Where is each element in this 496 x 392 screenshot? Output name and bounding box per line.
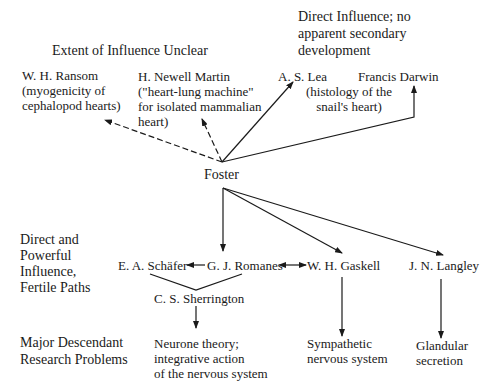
node-sherrington: C. S. Sherrington bbox=[154, 291, 244, 306]
problem-line: secretion bbox=[416, 353, 468, 368]
node-foster: Foster bbox=[204, 166, 239, 183]
node-langley: J. N. Langley bbox=[409, 258, 479, 273]
problem-line: Neurone theory; bbox=[154, 336, 268, 351]
node-romanes: G. J. Romanes bbox=[207, 258, 283, 273]
heading-descendant-problems: Major Descendant Research Problems bbox=[20, 334, 128, 368]
problem-sympathetic: Sympathetic nervous system bbox=[307, 336, 388, 366]
heading-line: apparent secondary bbox=[298, 25, 411, 42]
problem-line: nervous system bbox=[307, 351, 388, 366]
node-lea: A. S. Lea bbox=[278, 69, 327, 84]
node-note: snail's heart) bbox=[306, 99, 392, 114]
heading-direct-no-development: Direct Influence; no apparent secondary … bbox=[298, 8, 411, 59]
node-darwin: Francis Darwin bbox=[358, 69, 439, 84]
problem-line: Sympathetic bbox=[307, 336, 388, 351]
heading-line: Fertile Paths bbox=[20, 280, 90, 296]
problem-neurone-theory: Neurone theory; integrative action of th… bbox=[154, 336, 268, 381]
node-note: heart) bbox=[138, 114, 261, 129]
heading-line: development bbox=[298, 42, 411, 59]
node-note: cephalopod hearts) bbox=[22, 98, 121, 113]
heading-line: Direct and bbox=[20, 232, 90, 248]
heading-extent-unclear: Extent of Influence Unclear bbox=[52, 42, 208, 59]
node-lea-note: (histology of the snail's heart) bbox=[306, 84, 392, 114]
node-note: for isolated mammalian bbox=[138, 99, 261, 114]
node-gaskell: W. H. Gaskell bbox=[307, 258, 380, 273]
problem-line: of the nervous system bbox=[154, 366, 268, 381]
node-note: (histology of the bbox=[306, 84, 392, 99]
problem-line: integrative action bbox=[154, 351, 268, 366]
heading-line: Influence, bbox=[20, 264, 90, 280]
node-schafer: E. A. Schäfer bbox=[118, 258, 187, 273]
node-name: H. Newell Martin bbox=[138, 69, 261, 84]
heading-line: Major Descendant bbox=[20, 334, 128, 351]
heading-line: Research Problems bbox=[20, 351, 128, 368]
problem-glandular: Glandular secretion bbox=[416, 338, 468, 368]
node-ransom: W. H. Ransom (myogenicity of cephalopod … bbox=[22, 68, 121, 113]
heading-line: Direct Influence; no bbox=[298, 8, 411, 25]
heading-line: Powerful bbox=[20, 248, 90, 264]
node-note: (myogenicity of bbox=[22, 83, 121, 98]
problem-line: Glandular bbox=[416, 338, 468, 353]
node-martin: H. Newell Martin ("heart-lung machine" f… bbox=[138, 69, 261, 129]
node-note: ("heart-lung machine" bbox=[138, 84, 261, 99]
node-name: W. H. Ransom bbox=[22, 68, 121, 83]
heading-direct-powerful: Direct and Powerful Influence, Fertile P… bbox=[20, 232, 90, 296]
